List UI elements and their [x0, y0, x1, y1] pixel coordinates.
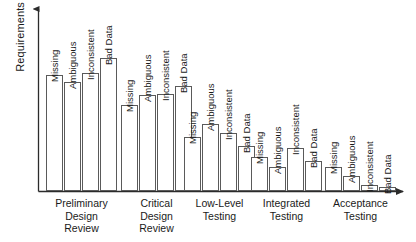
group-label: AcceptanceTesting — [316, 197, 406, 222]
bar-label: Bad Data — [241, 113, 252, 153]
bar-label: Ambiguous — [142, 55, 153, 103]
bar — [64, 82, 81, 191]
requirements-errors-bar-chart: Requirements Errors MissingAmbiguousInco… — [0, 0, 416, 242]
group-label-line: Review — [112, 222, 202, 235]
bar — [184, 137, 201, 191]
bar-label: Bad Data — [308, 128, 319, 168]
bar-label: Bad Data — [382, 155, 393, 195]
bar-label: Inconsistent — [223, 89, 234, 140]
bar-label: Missing — [328, 141, 339, 173]
bar — [139, 95, 156, 191]
bar-label: Ambiguous — [272, 126, 283, 174]
bar-label: Missing — [187, 111, 198, 143]
bar — [82, 73, 99, 191]
y-axis-label: Requirements Errors — [14, 0, 26, 84]
group-label-line: Testing — [316, 210, 406, 223]
bar — [46, 75, 63, 191]
bar-label: Inconsistent — [364, 142, 375, 193]
bar-label: Inconsistent — [160, 50, 171, 101]
bar-label: Missing — [124, 80, 135, 112]
bar — [100, 58, 117, 191]
bar-label: Inconsistent — [85, 29, 96, 80]
bar-label: Ambiguous — [67, 42, 78, 90]
bar-label: Inconsistent — [290, 104, 301, 155]
bar — [121, 105, 138, 191]
bar-label: Bad Data — [103, 25, 114, 65]
bar — [202, 124, 219, 192]
bar — [220, 133, 237, 191]
group-label-line: Acceptance — [316, 197, 406, 210]
bar-label: Ambiguous — [205, 83, 216, 131]
bar-label: Missing — [49, 50, 60, 82]
bar-label: Ambiguous — [346, 135, 357, 183]
bar-label: Bad Data — [178, 53, 189, 93]
bar — [157, 94, 174, 192]
bar-label: Missing — [254, 132, 265, 164]
